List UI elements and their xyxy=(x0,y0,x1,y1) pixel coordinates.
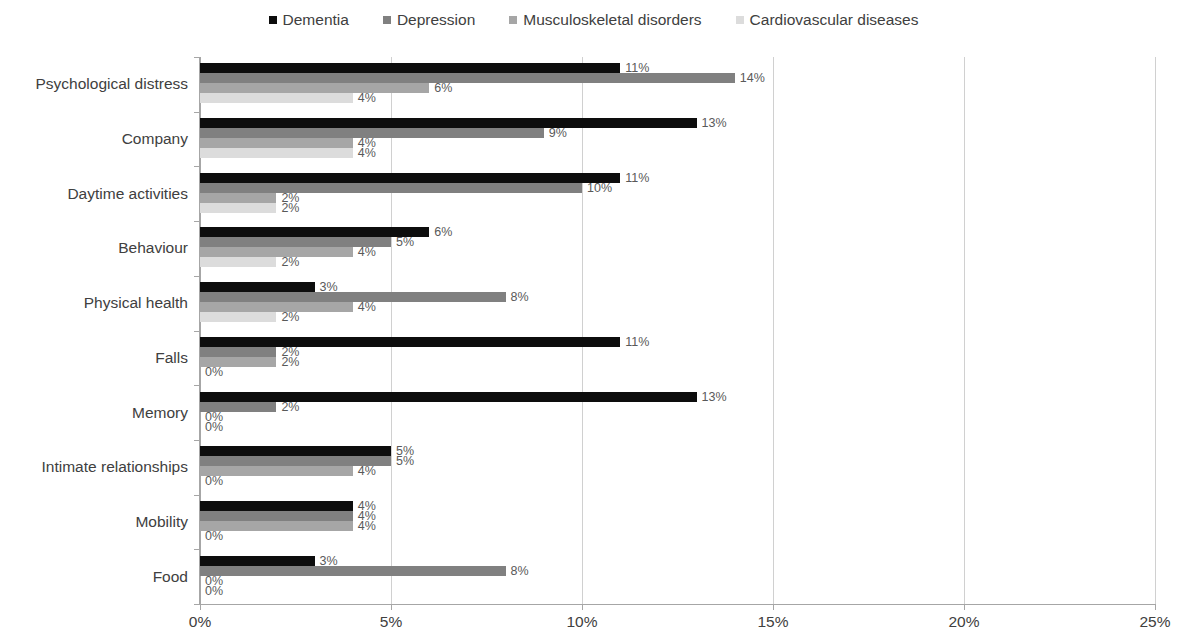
bar-value-label: 0% xyxy=(200,420,223,433)
y-axis-category-label: Company xyxy=(122,131,188,147)
bar-musculoskeletal-disorders[interactable] xyxy=(200,193,276,203)
bar-group: 5%5%4%0% xyxy=(200,446,1155,486)
y-axis-category-label: Physical health xyxy=(84,295,188,311)
bar-row: 0% xyxy=(200,531,1155,541)
bar-row: 5% xyxy=(200,237,1155,247)
bar-row: 4% xyxy=(200,302,1155,312)
bar-row: 0% xyxy=(200,367,1155,377)
bar-row: 0% xyxy=(200,586,1155,596)
y-axis-category-label: Behaviour xyxy=(118,241,188,257)
x-axis-tick-label: 5% xyxy=(380,614,402,630)
y-axis-category-label: Memory xyxy=(132,405,188,421)
chart-legend: DementiaDepressionMusculoskeletal disord… xyxy=(0,12,1187,28)
bar-row: 4% xyxy=(200,247,1155,257)
plot-area: 11%14%6%4%13%9%4%4%11%10%2%2%6%5%4%2%3%8… xyxy=(200,57,1155,604)
legend-swatch-icon xyxy=(509,16,517,24)
bar-row: 5% xyxy=(200,446,1155,456)
bar-dementia[interactable] xyxy=(200,63,620,73)
legend-label: Depression xyxy=(397,12,475,28)
legend-item-musculoskeletal-disorders[interactable]: Musculoskeletal disorders xyxy=(509,12,701,28)
bar-row: 8% xyxy=(200,566,1155,576)
bar-dementia[interactable] xyxy=(200,556,315,566)
y-axis-category-label: Falls xyxy=(155,350,188,366)
x-axis-tick xyxy=(200,605,201,610)
bar-group: 11%10%2%2% xyxy=(200,173,1155,213)
bar-dementia[interactable] xyxy=(200,501,353,511)
bar-row: 14% xyxy=(200,73,1155,83)
x-axis-tick xyxy=(391,605,392,610)
bar-musculoskeletal-disorders[interactable] xyxy=(200,83,429,93)
bar-value-label: 0% xyxy=(200,584,223,597)
x-axis-tick-label: 25% xyxy=(1139,614,1170,630)
legend-swatch-icon xyxy=(736,16,744,24)
x-axis-tick xyxy=(773,605,774,610)
bar-row: 4% xyxy=(200,148,1155,158)
y-axis-category-label: Daytime activities xyxy=(67,186,188,202)
bar-row: 4% xyxy=(200,466,1155,476)
bar-row: 2% xyxy=(200,312,1155,322)
legend-item-depression[interactable]: Depression xyxy=(383,12,475,28)
bar-row: 2% xyxy=(200,193,1155,203)
bar-row: 3% xyxy=(200,556,1155,566)
bar-dementia[interactable] xyxy=(200,173,620,183)
x-axis: 0%5%10%15%20%25% xyxy=(0,605,1187,641)
bar-groups: 11%14%6%4%13%9%4%4%11%10%2%2%6%5%4%2%3%8… xyxy=(200,57,1155,604)
legend-item-cardiovascular-diseases[interactable]: Cardiovascular diseases xyxy=(736,12,919,28)
bar-row: 5% xyxy=(200,456,1155,466)
legend-label: Cardiovascular diseases xyxy=(750,12,919,28)
bar-row: 4% xyxy=(200,521,1155,531)
bar-row: 4% xyxy=(200,511,1155,521)
x-axis-tick xyxy=(1155,605,1156,610)
bar-dementia[interactable] xyxy=(200,118,697,128)
bar-musculoskeletal-disorders[interactable] xyxy=(200,138,353,148)
bar-depression[interactable] xyxy=(200,347,276,357)
bar-depression[interactable] xyxy=(200,73,735,83)
bar-row: 2% xyxy=(200,357,1155,367)
bar-dementia[interactable] xyxy=(200,337,620,347)
bar-depression[interactable] xyxy=(200,183,582,193)
bar-row: 13% xyxy=(200,392,1155,402)
bar-row: 11% xyxy=(200,63,1155,73)
y-axis-category-label: Intimate relationships xyxy=(42,460,188,476)
bar-row: 0% xyxy=(200,422,1155,432)
bar-cardiovascular-diseases[interactable] xyxy=(200,312,276,322)
bar-depression[interactable] xyxy=(200,511,353,521)
bar-row: 8% xyxy=(200,292,1155,302)
bar-cardiovascular-diseases[interactable] xyxy=(200,148,353,158)
bar-dementia[interactable] xyxy=(200,392,697,402)
legend-item-dementia[interactable]: Dementia xyxy=(269,12,349,28)
bar-group: 4%4%4%0% xyxy=(200,501,1155,541)
bar-row: 10% xyxy=(200,183,1155,193)
bar-dementia[interactable] xyxy=(200,446,391,456)
bar-value-label: 4% xyxy=(353,147,376,160)
bar-row: 11% xyxy=(200,337,1155,347)
bar-dementia[interactable] xyxy=(200,282,315,292)
x-axis-tick-label: 0% xyxy=(189,614,211,630)
bar-cardiovascular-diseases[interactable] xyxy=(200,93,353,103)
bar-group: 11%2%2%0% xyxy=(200,337,1155,377)
y-axis-category-label: Mobility xyxy=(135,514,188,530)
bar-group: 13%2%0%0% xyxy=(200,392,1155,432)
legend-label: Dementia xyxy=(283,12,349,28)
bar-value-label: 0% xyxy=(200,475,223,488)
bar-row: 6% xyxy=(200,227,1155,237)
bar-group: 3%8%0%0% xyxy=(200,556,1155,596)
x-axis-tick xyxy=(964,605,965,610)
bar-value-label: 2% xyxy=(276,256,299,269)
legend-swatch-icon xyxy=(383,16,391,24)
bar-row: 4% xyxy=(200,93,1155,103)
bar-row: 2% xyxy=(200,257,1155,267)
bar-row: 11% xyxy=(200,173,1155,183)
bar-group: 13%9%4%4% xyxy=(200,118,1155,158)
bar-depression[interactable] xyxy=(200,566,506,576)
y-axis-category-label: Food xyxy=(153,569,188,585)
bar-cardiovascular-diseases[interactable] xyxy=(200,203,276,213)
legend-swatch-icon xyxy=(269,16,277,24)
bar-row: 2% xyxy=(200,347,1155,357)
y-axis-category-label: Psychological distress xyxy=(36,77,188,93)
bar-group: 3%8%4%2% xyxy=(200,282,1155,322)
bar-cardiovascular-diseases[interactable] xyxy=(200,257,276,267)
bar-row: 13% xyxy=(200,118,1155,128)
bar-row: 4% xyxy=(200,501,1155,511)
bar-value-label: 4% xyxy=(353,92,376,105)
